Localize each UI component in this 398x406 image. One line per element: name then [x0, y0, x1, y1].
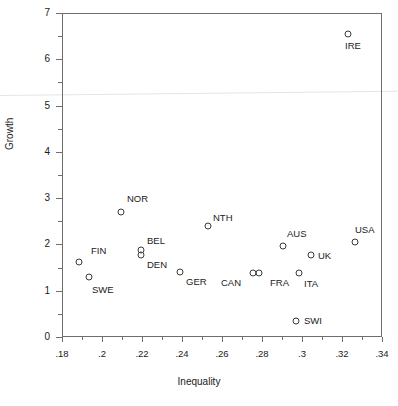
y-tick-label: 5 [0, 101, 50, 111]
y-tick [58, 314, 62, 315]
x-tick [182, 337, 183, 342]
data-point-marker [280, 242, 287, 249]
x-tick [202, 337, 203, 340]
y-tick-label: 2 [0, 239, 50, 249]
x-tick [142, 337, 143, 342]
x-tick [62, 337, 63, 342]
data-point-marker [118, 209, 125, 216]
data-point-label: AUS [287, 229, 307, 239]
y-tick-label: 3 [0, 193, 50, 203]
x-tick-label: .22 [135, 349, 148, 359]
y-tick-label: 7 [0, 8, 50, 18]
data-point-marker [138, 251, 145, 258]
x-tick [222, 337, 223, 342]
x-tick-label: .32 [335, 349, 348, 359]
data-point-marker [296, 270, 303, 277]
data-point-marker [177, 269, 184, 276]
y-tick [56, 59, 62, 60]
data-point-label: SWE [92, 285, 114, 295]
data-point-label: SWI [304, 316, 322, 326]
x-tick [162, 337, 163, 340]
x-tick [102, 337, 103, 342]
x-tick-label: .18 [55, 349, 68, 359]
data-point-label: BEL [147, 236, 165, 246]
y-tick [56, 152, 62, 153]
data-point-marker [256, 269, 263, 276]
data-point-label: NOR [127, 194, 148, 204]
x-tick [242, 337, 243, 340]
data-point-label: IRE [345, 41, 361, 51]
x-tick [82, 337, 83, 340]
x-tick [382, 337, 383, 342]
data-point-marker [293, 317, 300, 324]
x-tick-label: .26 [215, 349, 228, 359]
data-point-label: NTH [213, 213, 233, 223]
y-tick [58, 36, 62, 37]
scatter-plot-figure: 01234567 .18.2.22.24.26.28.3.32.34 FINSW… [0, 0, 398, 406]
x-tick-label: .34 [375, 349, 388, 359]
data-point-label: FIN [91, 246, 106, 256]
y-tick-label: 6 [0, 54, 50, 64]
data-point-marker [86, 273, 93, 280]
y-tick-label: 0 [0, 332, 50, 342]
y-tick [58, 221, 62, 222]
data-point-marker [308, 251, 315, 258]
y-axis-title: Growth [4, 118, 15, 150]
data-point-label: ITA [304, 279, 318, 289]
data-point-label: GER [186, 277, 207, 287]
y-tick [56, 106, 62, 107]
data-point-label: UK [318, 251, 331, 261]
data-point-label: DEN [147, 260, 167, 270]
y-tick [58, 268, 62, 269]
data-point-marker [205, 223, 212, 230]
x-tick [342, 337, 343, 342]
x-axis-title: Inequality [0, 376, 398, 387]
x-tick-label: .2 [98, 349, 106, 359]
x-tick-label: .24 [175, 349, 188, 359]
x-tick [122, 337, 123, 340]
y-tick [58, 82, 62, 83]
x-tick [262, 337, 263, 342]
y-tick [56, 244, 62, 245]
y-tick-label: 1 [0, 286, 50, 296]
y-tick [58, 129, 62, 130]
data-point-marker [76, 259, 83, 266]
x-tick [322, 337, 323, 340]
x-tick-label: .3 [298, 349, 306, 359]
data-point-label: CAN [221, 278, 241, 288]
y-tick [56, 198, 62, 199]
x-tick [362, 337, 363, 340]
data-point-label: FRA [270, 278, 289, 288]
x-tick [282, 337, 283, 340]
y-tick [58, 175, 62, 176]
x-tick-label: .28 [255, 349, 268, 359]
data-point-label: USA [355, 225, 375, 235]
y-tick [56, 291, 62, 292]
y-tick [56, 13, 62, 14]
x-tick [302, 337, 303, 342]
data-point-marker [352, 239, 359, 246]
data-point-marker [345, 30, 352, 37]
